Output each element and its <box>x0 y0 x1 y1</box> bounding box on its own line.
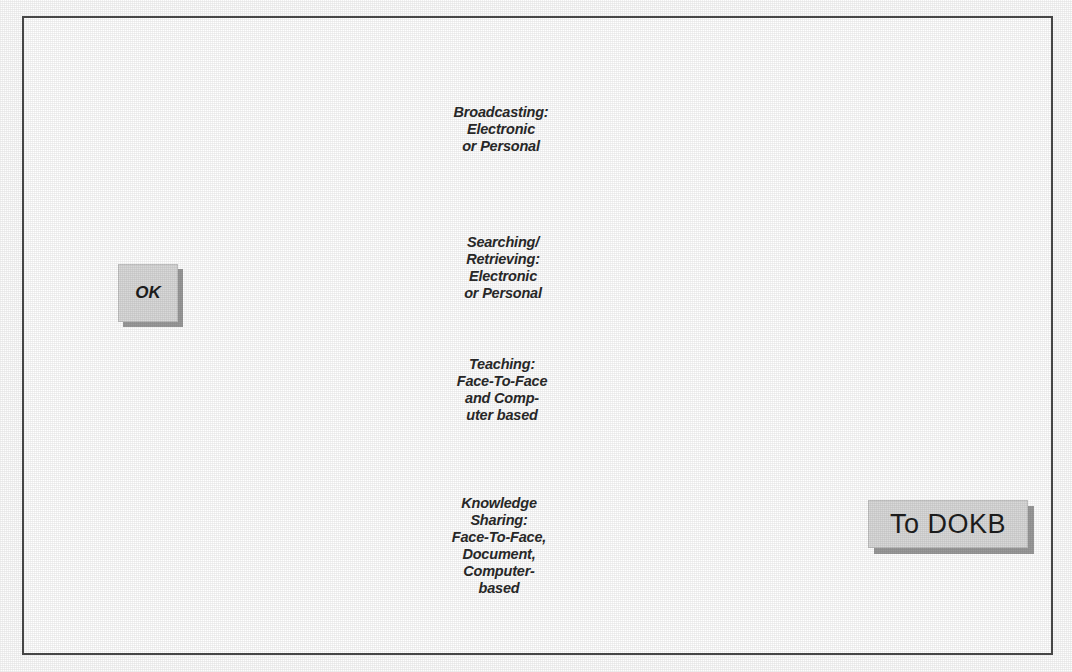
ok-node-label: OK <box>135 283 161 303</box>
to-dokb-node[interactable]: To DOKB <box>868 500 1028 548</box>
figure-page: Broadcasting: Electronic or Personal Sea… <box>0 0 1072 672</box>
figure-border-frame <box>22 16 1053 655</box>
ok-node[interactable]: OK <box>118 264 178 322</box>
to-dokb-node-label: To DOKB <box>890 509 1006 540</box>
